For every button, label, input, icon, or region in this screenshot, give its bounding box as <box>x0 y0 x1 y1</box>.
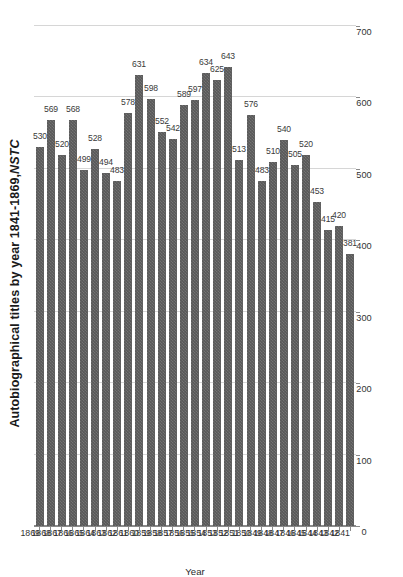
bar <box>180 105 188 526</box>
bar <box>135 75 143 526</box>
bar-value-label: 483 <box>255 165 269 175</box>
bar-row: 483 <box>258 26 266 526</box>
bar <box>213 80 221 526</box>
bar-value-label: 494 <box>99 157 113 167</box>
bar <box>124 113 132 526</box>
bar <box>36 147 44 526</box>
value-tick-label: 600 <box>356 98 371 108</box>
bar-value-label: 415 <box>321 214 335 224</box>
bar-value-label: 568 <box>66 104 80 114</box>
bar <box>91 149 99 526</box>
value-tick-label: 0 <box>361 527 366 537</box>
bar <box>191 100 199 526</box>
bar <box>302 155 310 526</box>
chart-title: Autobiographical titles by year 1841-186… <box>8 0 22 567</box>
bar <box>169 139 177 526</box>
chart-title-main: Autobiographical titles by year 1841-186… <box>8 174 22 428</box>
bar-value-label: 505 <box>288 149 302 159</box>
bar-row: 598 <box>147 26 155 526</box>
bar-row: 513 <box>235 26 243 526</box>
bar-row: 634 <box>202 26 210 526</box>
bar-value-label: 528 <box>88 133 102 143</box>
bar <box>247 115 255 526</box>
value-tick-mark <box>356 526 360 527</box>
bar-row: 528 <box>91 26 99 526</box>
bar-row: 552 <box>158 26 166 526</box>
bar-row: 494 <box>102 26 110 526</box>
value-tick-label: 200 <box>356 384 371 394</box>
bar <box>158 132 166 526</box>
bar-value-label: 631 <box>132 59 146 69</box>
bar-row: 568 <box>69 26 77 526</box>
bar-value-label: 510 <box>266 146 280 156</box>
bar <box>224 67 232 526</box>
bar-row: 381 <box>346 26 354 526</box>
bar-row: 530 <box>36 26 44 526</box>
bar <box>69 120 77 526</box>
bar-row: 542 <box>169 26 177 526</box>
bar <box>324 230 332 526</box>
bar-row: 520 <box>302 26 310 526</box>
bar-row: 453 <box>313 26 321 526</box>
category-axis-title: Year <box>185 566 204 577</box>
bar <box>313 202 321 526</box>
bar <box>58 155 66 526</box>
bar-row: 578 <box>124 26 132 526</box>
plot-area: 3814204154535205055405104835765136436256… <box>34 26 356 527</box>
bar-value-label: 540 <box>277 124 291 134</box>
bar-row: 643 <box>224 26 232 526</box>
bar-row: 631 <box>135 26 143 526</box>
bar-value-label: 552 <box>155 116 169 126</box>
bar-row: 576 <box>247 26 255 526</box>
bar-row: 483 <box>113 26 121 526</box>
bar-row: 415 <box>324 26 332 526</box>
bar-row: 625 <box>213 26 221 526</box>
bar-value-label: 520 <box>299 139 313 149</box>
value-tick-label: 500 <box>356 170 371 180</box>
bar <box>202 73 210 526</box>
bar-row: 510 <box>269 26 277 526</box>
bar-value-label: 598 <box>144 83 158 93</box>
bar <box>335 226 343 526</box>
bar-row: 540 <box>280 26 288 526</box>
value-tick-label: 100 <box>356 456 371 466</box>
bar-row: 505 <box>291 26 299 526</box>
bar <box>113 181 121 526</box>
bar-row: 520 <box>58 26 66 526</box>
bar-value-label: 578 <box>121 97 135 107</box>
value-tick-label: 400 <box>356 241 371 251</box>
bar <box>80 170 88 526</box>
bar-row: 589 <box>180 26 188 526</box>
bar-value-label: 576 <box>243 99 257 109</box>
bar <box>291 165 299 526</box>
chart-title-source: NSTC <box>8 139 22 173</box>
bar-value-label: 453 <box>310 186 324 196</box>
bar <box>280 140 288 526</box>
bar-value-label: 634 <box>199 57 213 67</box>
bar-value-label: 499 <box>77 154 91 164</box>
value-tick-label: 300 <box>356 313 371 323</box>
bar-row: 597 <box>191 26 199 526</box>
bar <box>102 173 110 526</box>
value-axis: 0100200300400500600700 <box>356 27 402 527</box>
bar <box>269 162 277 526</box>
bar-value-label: 589 <box>177 89 191 99</box>
bar <box>47 120 55 526</box>
bar <box>235 160 243 526</box>
bar-row: 420 <box>335 26 343 526</box>
bar-value-label: 643 <box>221 51 235 61</box>
category-tick-label: 1869 <box>20 528 40 538</box>
bar <box>346 254 354 526</box>
bar <box>258 181 266 526</box>
category-axis: Year 18411842184318441845184618471848184… <box>34 527 356 567</box>
bar-value-label: 569 <box>44 104 58 114</box>
bar-value-label: 530 <box>33 131 47 141</box>
bar-value-label: 520 <box>55 139 69 149</box>
bar-value-label: 513 <box>232 144 246 154</box>
bar-row: 499 <box>80 26 88 526</box>
value-tick-label: 700 <box>356 27 371 37</box>
bar-row: 569 <box>47 26 55 526</box>
bar <box>147 99 155 526</box>
